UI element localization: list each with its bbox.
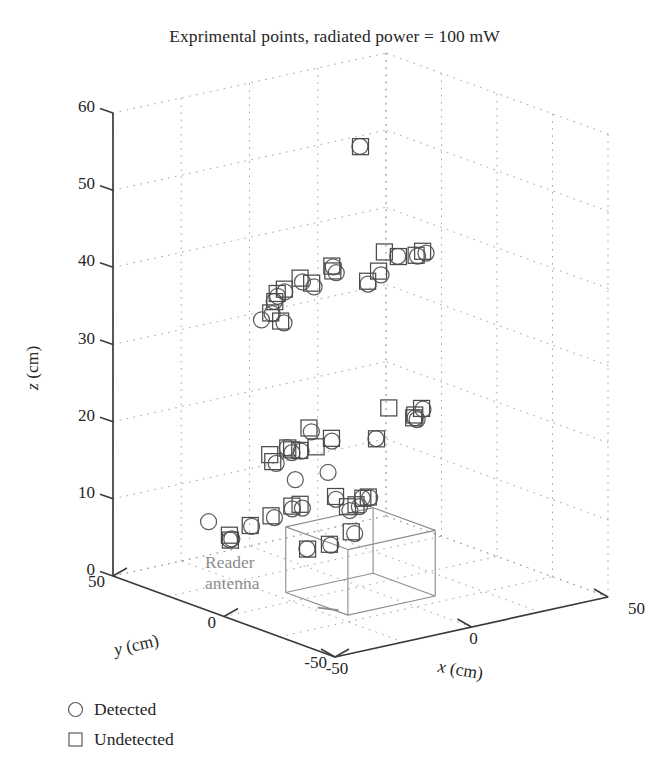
annotation-line-2: antenna xyxy=(205,573,259,594)
z-axis-symbol: z xyxy=(22,383,42,390)
tick-label: 50 xyxy=(628,599,645,619)
grid-lines xyxy=(113,53,608,657)
data-markers xyxy=(201,138,434,557)
tick-label: 60 xyxy=(78,97,95,117)
tick-label: 20 xyxy=(78,406,95,426)
reader-antenna-annotation: Reader antenna xyxy=(205,552,259,593)
legend-item-undetected: Undetected xyxy=(62,724,322,754)
tick-label: 0 xyxy=(469,629,478,649)
legend-item-detected: Detected xyxy=(62,694,322,724)
circle-marker xyxy=(62,701,88,718)
square-marker xyxy=(62,731,88,748)
tick-label: 30 xyxy=(78,329,95,349)
z-axis-label: z (cm) xyxy=(22,346,43,390)
tick-label: 40 xyxy=(78,251,95,271)
reader-antenna-box xyxy=(286,508,436,615)
tick-label: 0 xyxy=(208,613,217,633)
legend-label-undetected: Undetected xyxy=(88,729,174,750)
chart-title: Exprimental points, radiated power = 100… xyxy=(0,26,669,47)
z-axis-unit: (cm) xyxy=(22,346,42,383)
annotation-line-1: Reader xyxy=(205,552,259,573)
axis-lines xyxy=(100,109,608,658)
legend-label-detected: Detected xyxy=(88,699,156,720)
figure-3d-scatter: Exprimental points, radiated power = 100… xyxy=(0,0,669,773)
tick-label: -50 xyxy=(304,653,327,673)
tick-label: 50 xyxy=(78,174,95,194)
tick-label: -50 xyxy=(326,659,349,679)
legend: Detected Undetected xyxy=(62,694,322,754)
tick-label: 10 xyxy=(78,483,95,503)
plot-canvas xyxy=(0,0,669,773)
tick-label: 50 xyxy=(88,572,105,592)
